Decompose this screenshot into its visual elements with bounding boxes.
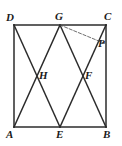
geometry-figure: D G C P H F A E B: [0, 0, 122, 146]
vertex-label-D: D: [6, 12, 14, 23]
vertex-label-F: F: [85, 70, 92, 81]
vertex-label-C: C: [104, 11, 111, 22]
vertex-label-H: H: [39, 70, 48, 81]
vertex-label-E: E: [56, 129, 63, 140]
vertex-label-P: P: [98, 38, 105, 49]
vertex-label-B: B: [103, 129, 110, 140]
vertex-label-G: G: [55, 11, 63, 22]
vertex-label-A: A: [6, 129, 13, 140]
